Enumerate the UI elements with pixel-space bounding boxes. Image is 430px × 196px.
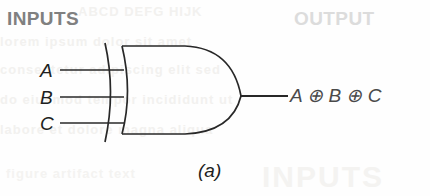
input-label-b: B <box>40 88 53 107</box>
xor-gate-back-arc <box>122 46 128 134</box>
xor-gate-lower-edge <box>122 96 241 134</box>
xor-outer-arc <box>105 43 111 142</box>
figure-caption: (a) <box>198 160 221 182</box>
input-label-a: A <box>40 61 53 80</box>
output-expression-label: A ⊕ B ⊕ C <box>290 86 381 105</box>
figure-canvas: ABCD DEFG HIJK lorem ipsum dolor sit ame… <box>0 0 430 196</box>
input-label-c: C <box>40 114 54 133</box>
xor-gate-upper-edge <box>122 46 241 96</box>
